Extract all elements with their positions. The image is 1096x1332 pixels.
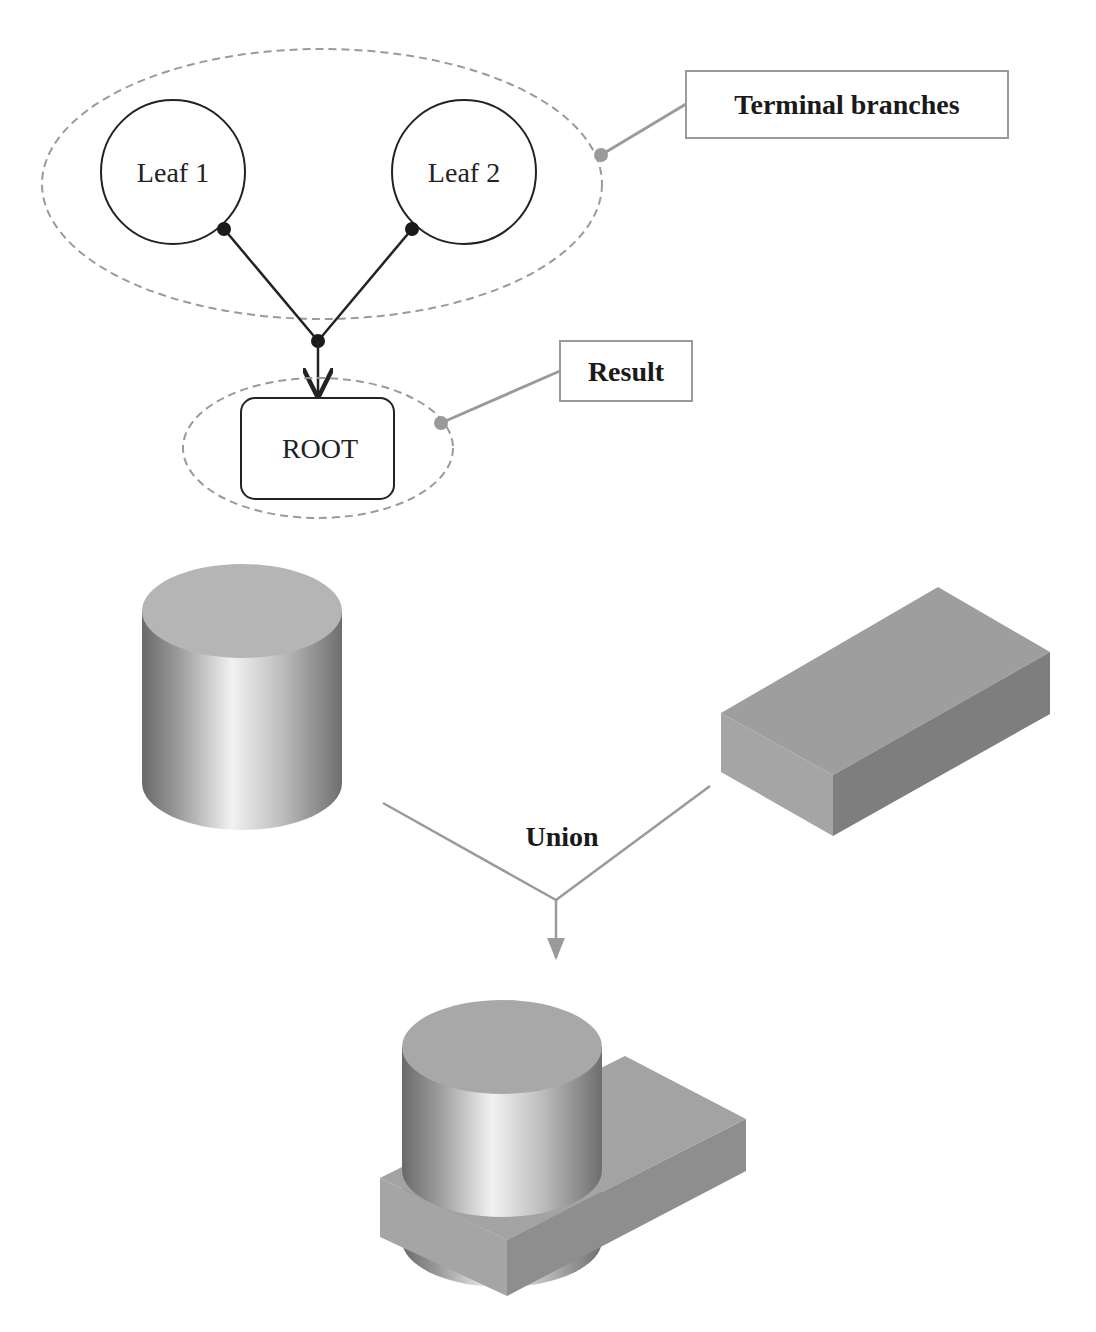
terminal-callout-label: Terminal branches bbox=[734, 89, 959, 120]
result-callout: Result bbox=[434, 341, 692, 430]
result-callout-dot bbox=[434, 416, 448, 430]
result-callout-label: Result bbox=[588, 356, 665, 387]
root-label: ROOT bbox=[282, 433, 358, 464]
box-solid bbox=[721, 587, 1050, 836]
leaf-2-port-dot bbox=[405, 222, 419, 236]
leaf-1-port-dot bbox=[217, 222, 231, 236]
cylinder-solid bbox=[142, 564, 342, 830]
terminal-branches-callout: Terminal branches bbox=[594, 71, 1008, 162]
result-group: ROOT bbox=[183, 378, 453, 518]
csg-diagram-canvas: Leaf 1 Leaf 2 ROOT Terminal branches Res… bbox=[0, 0, 1096, 1332]
union-result-solid bbox=[380, 1000, 746, 1296]
edge-leaf-2 bbox=[318, 229, 412, 341]
edge-leaf-1 bbox=[224, 229, 318, 341]
terminal-callout-dot bbox=[594, 148, 608, 162]
terminal-branches-group: Leaf 1 Leaf 2 bbox=[42, 49, 602, 348]
leaf-1-label: Leaf 1 bbox=[137, 157, 209, 188]
leaf-2-label: Leaf 2 bbox=[428, 157, 500, 188]
union-label: Union bbox=[525, 821, 599, 852]
union-connector bbox=[383, 786, 710, 958]
